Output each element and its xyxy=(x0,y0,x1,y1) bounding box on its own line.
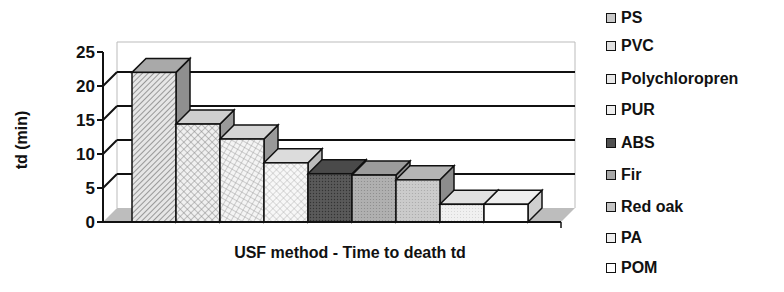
legend-swatch xyxy=(606,41,616,51)
y-tick-label: 25 xyxy=(76,43,95,62)
legend-item-pa: PA xyxy=(606,228,642,248)
legend-item-fir: Fir xyxy=(606,165,641,185)
y-axis: 0510152025 xyxy=(76,43,103,232)
legend-item-ps: PS xyxy=(606,8,642,28)
legend-swatch xyxy=(606,138,616,148)
y-tick-label: 20 xyxy=(76,77,95,96)
y-axis-title: td (min) xyxy=(13,111,31,170)
legend-swatch xyxy=(606,263,616,273)
legend-swatch xyxy=(606,202,616,212)
x-axis-title: USF method - Time to death td xyxy=(130,244,570,262)
legend-swatch xyxy=(606,13,616,23)
legend-item-polychloropren: Polychloropren xyxy=(606,69,738,89)
y-tick-label: 0 xyxy=(86,213,95,232)
bar-pom xyxy=(484,190,542,222)
y-tick-label: 5 xyxy=(86,179,95,198)
y-tick-label: 15 xyxy=(76,111,95,130)
legend-swatch xyxy=(606,170,616,180)
legend-swatch xyxy=(606,105,616,115)
legend-item-pur: PUR xyxy=(606,100,655,120)
legend-item-pom: POM xyxy=(606,258,657,278)
legend-item-red-oak: Red oak xyxy=(606,197,683,217)
legend-swatch xyxy=(606,74,616,84)
legend-swatch xyxy=(606,233,616,243)
legend-item-pvc: PVC xyxy=(606,36,654,56)
legend-item-abs: ABS xyxy=(606,133,655,153)
y-tick-label: 10 xyxy=(76,145,95,164)
